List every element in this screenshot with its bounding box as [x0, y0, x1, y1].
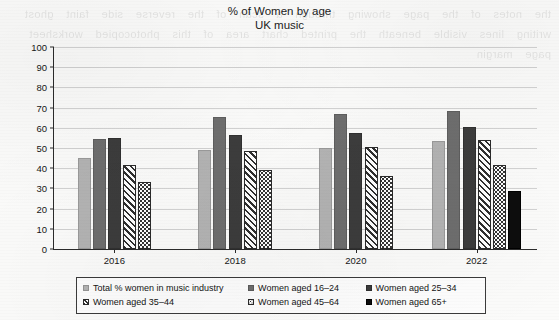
y-axis-tick-label: 30: [36, 183, 47, 194]
bar-2016-total: [78, 158, 91, 249]
x-axis-tick-mark: [477, 249, 478, 253]
y-axis-tick-label: 70: [36, 102, 47, 113]
x-axis-tick-label-2016: 2016: [104, 255, 125, 266]
y-axis-tick-label: 100: [31, 42, 47, 53]
bar-2022-a65: [508, 191, 521, 249]
legend-swatch-a1624-icon: [248, 285, 254, 291]
y-axis-tick-label: 40: [36, 163, 47, 174]
bar-2016-a1624: [93, 139, 106, 249]
chart-title-line1: % of Women by age: [0, 4, 559, 18]
x-axis-tick-mark: [114, 249, 115, 253]
x-axis-tick-label-2022: 2022: [466, 255, 487, 266]
bar-2018-a1624: [213, 117, 226, 249]
bar-group-2016: [54, 47, 175, 249]
x-axis-tick-mark: [356, 249, 357, 253]
bar-2016-a3544: [123, 165, 136, 249]
y-axis-tick-label: 0: [42, 244, 47, 255]
bar-2022-a1624: [447, 111, 460, 249]
bar-2022-a2534: [463, 127, 476, 249]
y-axis-tick-label: 50: [36, 143, 47, 154]
bar-2018-a4564: [259, 170, 272, 249]
bar-2018-a3544: [244, 151, 257, 249]
bar-group-2022: [416, 47, 537, 249]
legend-label: Women aged 45–64: [258, 297, 339, 307]
legend-item-a1624: Women aged 16–24: [248, 283, 361, 293]
bar-2018-a2534: [229, 135, 242, 249]
x-axis-tick-mark: [235, 249, 236, 253]
legend-swatch-a65-icon: [366, 299, 372, 305]
plot-wrapper: 0102030405060708090100 2016201820202022: [0, 0, 559, 265]
bar-group-2018: [175, 47, 296, 249]
y-axis-tick-label: 80: [36, 82, 47, 93]
bar-2020-a1624: [334, 114, 347, 249]
bar-2020-total: [319, 148, 332, 249]
bar-2018-total: [198, 150, 211, 249]
legend-label: Total % women in music industry: [93, 283, 224, 293]
legend-item-a65: Women aged 65+: [366, 297, 479, 307]
bar-2020-a4564: [380, 176, 393, 249]
y-axis-tick-label: 90: [36, 62, 47, 73]
x-axis-tick-label-2020: 2020: [345, 255, 366, 266]
legend-item-total: Total % women in music industry: [83, 283, 244, 293]
legend-swatch-total-icon: [83, 285, 89, 291]
bar-2022-total: [432, 141, 445, 249]
legend-item-a2534: Women aged 25–34: [366, 283, 479, 293]
y-axis-tick-label: 60: [36, 122, 47, 133]
legend-label: Women aged 16–24: [258, 283, 339, 293]
plot-area: 0102030405060708090100 2016201820202022: [53, 47, 537, 250]
legend-item-a4564: Women aged 45–64: [248, 297, 361, 307]
legend-label: Women aged 35–44: [93, 297, 174, 307]
chart-legend: Total % women in music industryWomen age…: [76, 277, 486, 314]
y-axis-tick-label: 10: [36, 223, 47, 234]
bar-2016-a4564: [138, 182, 151, 249]
legend-swatch-a4564-icon: [248, 299, 254, 305]
legend-item-a3544: Women aged 35–44: [83, 297, 244, 307]
bar-2022-a4564: [493, 165, 506, 249]
bar-group-2020: [296, 47, 417, 249]
chart-title-line2: UK music: [0, 18, 559, 32]
bar-2020-a2534: [349, 133, 362, 249]
legend-label: Women aged 25–34: [376, 283, 457, 293]
bar-2016-a2534: [108, 138, 121, 249]
legend-swatch-a3544-icon: [83, 299, 89, 305]
x-axis-tick-label-2018: 2018: [225, 255, 246, 266]
bar-2020-a3544: [365, 147, 378, 249]
bar-2022-a3544: [478, 140, 491, 249]
legend-label: Women aged 65+: [376, 297, 447, 307]
chart-title: % of Women by age UK music: [0, 4, 559, 32]
y-axis-tick-label: 20: [36, 203, 47, 214]
legend-swatch-a2534-icon: [366, 285, 372, 291]
